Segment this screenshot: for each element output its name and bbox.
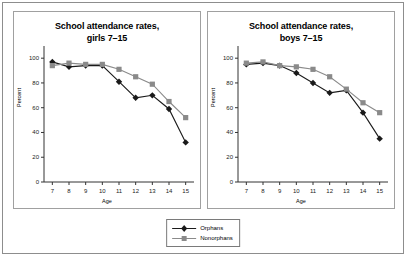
chart-panel-boys: School attendance rates, boys 7–15 Perce… xyxy=(207,11,395,209)
x-axis-label-girls: Age xyxy=(14,198,200,204)
svg-text:14: 14 xyxy=(166,188,173,194)
svg-text:80: 80 xyxy=(32,80,39,86)
svg-text:15: 15 xyxy=(182,188,189,194)
plot-area-boys: Percent 020406080100789101112131415 Age xyxy=(208,12,394,208)
svg-text:13: 13 xyxy=(343,188,350,194)
svg-text:0: 0 xyxy=(230,179,234,185)
svg-text:8: 8 xyxy=(261,188,265,194)
chart-panel-girls: School attendance rates, girls 7–15 Perc… xyxy=(13,11,201,209)
svg-text:80: 80 xyxy=(226,80,233,86)
legend-swatch-orphans-icon xyxy=(171,224,197,233)
svg-text:8: 8 xyxy=(67,188,71,194)
svg-text:60: 60 xyxy=(32,105,39,111)
svg-text:60: 60 xyxy=(226,105,233,111)
svg-text:13: 13 xyxy=(149,188,156,194)
svg-text:20: 20 xyxy=(32,154,39,160)
svg-text:15: 15 xyxy=(376,188,383,194)
svg-text:11: 11 xyxy=(310,188,317,194)
legend-item-nonorphans: Nonorphans xyxy=(171,233,233,243)
legend-swatch-nonorphans-icon xyxy=(171,234,197,243)
figure-container: School attendance rates, girls 7–15 Perc… xyxy=(2,2,404,254)
svg-text:9: 9 xyxy=(278,188,282,194)
plot-svg-boys: 020406080100789101112131415 xyxy=(208,12,394,208)
svg-text:0: 0 xyxy=(36,179,40,185)
svg-text:10: 10 xyxy=(99,188,106,194)
svg-text:11: 11 xyxy=(116,188,123,194)
svg-text:12: 12 xyxy=(132,188,139,194)
svg-text:9: 9 xyxy=(84,188,88,194)
plot-svg-girls: 020406080100789101112131415 xyxy=(14,12,200,208)
svg-text:100: 100 xyxy=(223,55,234,61)
svg-text:7: 7 xyxy=(51,188,55,194)
svg-text:12: 12 xyxy=(326,188,333,194)
legend-label-nonorphans: Nonorphans xyxy=(200,235,233,241)
chart-panels: School attendance rates, girls 7–15 Perc… xyxy=(3,3,403,215)
chart-legend: Orphans Nonorphans xyxy=(166,219,240,247)
svg-text:14: 14 xyxy=(360,188,367,194)
svg-text:7: 7 xyxy=(245,188,249,194)
svg-text:40: 40 xyxy=(32,129,39,135)
svg-text:40: 40 xyxy=(226,129,233,135)
plot-area-girls: Percent 020406080100789101112131415 Age xyxy=(14,12,200,208)
legend-item-orphans: Orphans xyxy=(171,223,233,233)
legend-label-orphans: Orphans xyxy=(200,225,223,231)
svg-text:10: 10 xyxy=(293,188,300,194)
svg-text:20: 20 xyxy=(226,154,233,160)
x-axis-label-boys: Age xyxy=(208,198,394,204)
svg-text:100: 100 xyxy=(29,55,40,61)
